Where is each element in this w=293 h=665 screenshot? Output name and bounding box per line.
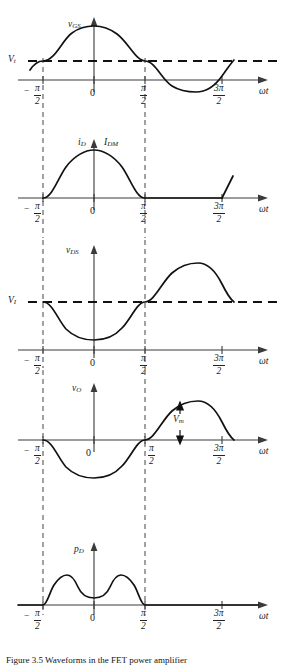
xaxis-label-5: ωt — [259, 611, 268, 621]
xlabel-half-pi-2: π2 — [140, 202, 147, 224]
xlabel-zero-1: 0 — [90, 87, 95, 98]
xlabel-half-pi-1: π2 — [140, 84, 147, 106]
x-axis-arrow — [258, 602, 268, 609]
y-axis-arrow — [91, 542, 98, 551]
id-curve — [43, 150, 222, 198]
xlabel-minus-half-pi-1: π2 — [34, 84, 41, 106]
y-axis-arrow — [91, 17, 98, 26]
panel-vgs-y-label: vGS — [68, 20, 81, 30]
minus-sign-3: − — [24, 356, 29, 366]
xlabel-half-pi-4: π2 — [148, 444, 155, 466]
xlabel-zero-4: 0 — [86, 447, 91, 458]
xlabel-minus-half-pi-2: π2 — [34, 202, 41, 224]
xlabel-minus-half-pi-4: π2 — [34, 444, 41, 466]
x-axis-arrow — [258, 437, 268, 444]
xaxis-label-1: ωt — [259, 86, 268, 96]
panel-vds-y-label: vDS — [66, 246, 79, 256]
minus-sign-1: − — [24, 86, 29, 96]
panel-vds-level-label: VI — [8, 296, 16, 306]
panel-vds-plot — [0, 240, 293, 370]
panel-vgs: vGS Vt − π2 0 π2 3π2 ωt — [0, 0, 293, 120]
panel-vo-amp-label: Vm — [173, 415, 184, 425]
minus-sign-2: − — [24, 204, 29, 214]
xaxis-label-4: ωt — [259, 446, 268, 456]
panel-vo-plot — [0, 370, 293, 515]
minus-sign-4: − — [24, 446, 29, 456]
vgs-curve — [30, 26, 234, 92]
x-axis-arrow — [258, 77, 268, 84]
xlabel-zero-3: 0 — [90, 357, 95, 368]
vm-arrow-up — [177, 402, 183, 410]
xaxis-label-2: ωt — [259, 204, 268, 214]
xlabel-three-half-pi-5: 3π2 — [213, 609, 225, 631]
minus-sign-5: − — [24, 611, 29, 621]
panel-id-peak-label: IDM — [104, 138, 118, 148]
panel-vgs-level-label: Vt — [8, 55, 16, 65]
xlabel-zero-2: 0 — [90, 205, 95, 216]
xaxis-label-3: ωt — [259, 356, 268, 366]
xlabel-three-half-pi-1: 3π2 — [213, 84, 225, 106]
xlabel-half-pi-5: π2 — [140, 609, 147, 631]
figure-caption: Figure 3.5 Waveforms in the FET power am… — [6, 655, 293, 665]
panel-pd-y-label: pD — [74, 545, 84, 555]
xlabel-zero-5: 0 — [90, 612, 95, 623]
x-axis-arrow — [258, 195, 268, 202]
pd-curve — [18, 575, 258, 605]
panel-pd: pD − π2 0 π2 3π2 ωt — [0, 515, 293, 650]
xlabel-three-half-pi-2: 3π2 — [213, 202, 225, 224]
panel-id: iD IDM − π2 0 π2 3π2 ωt — [0, 120, 293, 240]
panel-vo: vO Vm − π2 0 π2 3π2 ωt — [0, 370, 293, 515]
y-axis-arrow — [91, 139, 98, 148]
vm-arrow-down — [177, 436, 183, 444]
panel-vo-y-label: vO — [72, 384, 81, 394]
y-axis-arrow — [91, 245, 98, 254]
y-axis-arrow — [91, 383, 98, 392]
xlabel-three-half-pi-4: 3π2 — [213, 444, 225, 466]
x-axis-arrow — [258, 347, 268, 354]
panel-id-y-label: iD — [78, 138, 86, 148]
panel-vds: vDS VI − π2 0 π2 3π2 ωt — [0, 240, 293, 370]
xlabel-minus-half-pi-5: π2 — [34, 609, 41, 631]
id-next-cycle-edge — [222, 176, 233, 198]
